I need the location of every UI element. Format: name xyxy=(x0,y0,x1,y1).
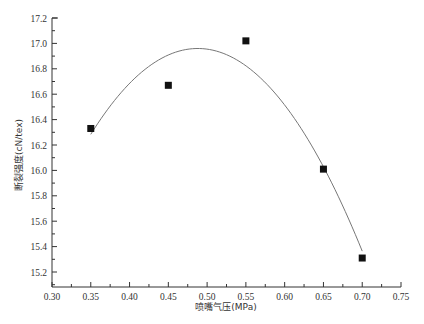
y-tick-label: 15.8 xyxy=(30,191,47,201)
data-point-square-marker xyxy=(87,125,94,132)
x-tick-labels: 0.300.350.400.450.500.550.600.650.700.75 xyxy=(44,292,410,302)
y-tick-label: 15.6 xyxy=(30,217,47,227)
y-tick-label: 15.4 xyxy=(30,242,47,252)
data-point-square-marker xyxy=(165,82,172,89)
x-axis-label: 喷嘴气压(MPa) xyxy=(195,301,256,312)
y-tick-labels: 15.215.415.615.816.016.216.416.616.817.0… xyxy=(30,14,47,278)
fit-curve xyxy=(91,49,362,252)
axes xyxy=(52,18,401,287)
x-tick-label: 0.65 xyxy=(315,292,332,302)
data-point-square-marker xyxy=(359,255,366,262)
x-tick-label: 0.75 xyxy=(393,292,410,302)
y-tick-label: 15.2 xyxy=(30,268,47,278)
chart: 15.215.415.615.816.016.216.416.616.817.0… xyxy=(0,0,424,324)
y-tick-label: 16.6 xyxy=(30,90,47,100)
x-tick-label: 0.30 xyxy=(44,292,61,302)
x-tick-label: 0.55 xyxy=(238,292,255,302)
y-tick-label: 16.4 xyxy=(30,115,47,125)
y-tick-label: 17.2 xyxy=(30,14,47,24)
y-tick-label: 17.0 xyxy=(30,39,47,49)
data-point-square-marker xyxy=(320,166,327,173)
y-axis-label: 断裂强度(cN/tex) xyxy=(13,119,24,191)
x-tick-label: 0.35 xyxy=(82,292,99,302)
x-tick-label: 0.60 xyxy=(276,292,293,302)
y-tick-label: 16.2 xyxy=(30,141,47,151)
x-tick-label: 0.40 xyxy=(121,292,138,302)
y-tick-label: 16.8 xyxy=(30,64,47,74)
x-tick-label: 0.50 xyxy=(199,292,216,302)
x-tick-label: 0.70 xyxy=(354,292,371,302)
data-points xyxy=(87,37,365,261)
data-point-square-marker xyxy=(242,37,249,44)
x-tick-label: 0.45 xyxy=(160,292,177,302)
y-tick-label: 16.0 xyxy=(30,166,47,176)
